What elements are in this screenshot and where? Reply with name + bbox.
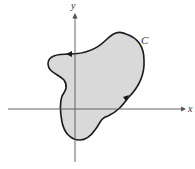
y-axis-label: y: [70, 0, 76, 11]
curve-label: C: [141, 34, 149, 46]
region-curve-c: [48, 32, 144, 140]
diagram-canvas: y x C: [0, 0, 195, 169]
x-axis-label: x: [187, 103, 193, 114]
